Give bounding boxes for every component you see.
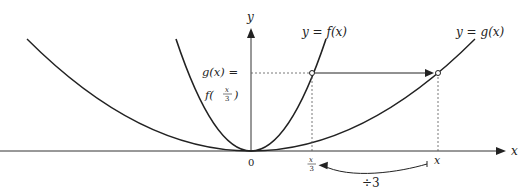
svg-text:): ) xyxy=(233,88,239,102)
divide-label: ÷3 xyxy=(362,176,380,190)
point-f-x-over-3 xyxy=(310,71,315,76)
y-axis xyxy=(247,28,255,151)
function-transform-diagram: x y 0 y = f(x) y = g(x) g(x) = f( x 3 ) … xyxy=(0,0,521,195)
tick-x-over-3: x 3 xyxy=(308,156,317,173)
x-axis-label: x xyxy=(511,144,518,158)
point-g-x xyxy=(436,71,441,76)
tick-x: x xyxy=(434,154,441,167)
y-axis-label: y xyxy=(246,10,254,24)
x-axis-arrow-icon xyxy=(496,147,506,155)
svg-text:3: 3 xyxy=(310,165,314,173)
divide-arrowhead-icon xyxy=(318,162,330,172)
y-axis-arrow-icon xyxy=(247,28,255,38)
origin-label: 0 xyxy=(248,157,254,168)
label-f-curve: y = f(x) xyxy=(301,25,347,39)
divide-arrow xyxy=(322,164,427,173)
svg-text:f(: f( xyxy=(204,88,214,102)
mapping-arrowhead-icon xyxy=(425,69,434,77)
label-g-curve: y = g(x) xyxy=(455,25,505,39)
frac-num: x xyxy=(225,86,229,94)
annotation-f-x-over-3: f( x 3 ) xyxy=(204,86,239,103)
frac-den: 3 xyxy=(225,95,229,103)
svg-text:x: x xyxy=(309,156,313,164)
annotation-gx: g(x) = xyxy=(202,65,238,79)
